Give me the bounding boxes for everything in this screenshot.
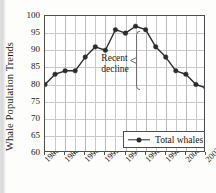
bracket-pointer — [131, 57, 137, 63]
y-tick-label: 95 — [31, 27, 40, 37]
x-tick-mark — [145, 152, 146, 155]
x-tick-mark — [205, 152, 206, 155]
x-tick-mark — [104, 152, 105, 155]
y-tick-label: 80 — [31, 79, 40, 89]
y-tick-label: 70 — [31, 113, 40, 123]
x-tick-mark-minor — [175, 152, 176, 154]
x-tick-mark-minor — [54, 152, 55, 154]
x-tick-mark-minor — [94, 152, 95, 154]
y-tick-label: 65 — [31, 130, 40, 140]
plot-area: Recent decline Total whales — [44, 15, 205, 152]
x-tick-mark — [84, 152, 85, 155]
x-tick-mark-minor — [195, 152, 196, 154]
y-tick-label: 75 — [31, 96, 40, 106]
y-axis-title: Whale Population Trends — [2, 0, 16, 193]
x-tick-mark — [125, 152, 126, 155]
y-tick-label: 100 — [27, 10, 41, 20]
x-tick-mark — [44, 152, 45, 155]
y-tick-label: 90 — [31, 44, 40, 54]
chart-root: Whale Population Trends 1009590858075706… — [0, 0, 216, 193]
recent-decline-annotation: Recent decline — [101, 53, 128, 75]
x-tick-mark-minor — [114, 152, 115, 154]
x-tick-mark — [185, 152, 186, 155]
y-tick-label: 85 — [31, 61, 40, 71]
legend-label-total-whales: Total whales — [155, 135, 203, 145]
y-tick-label: 60 — [31, 147, 40, 157]
y-axis-title-container: Whale Population Trends — [4, 0, 18, 193]
x-tick-mark-minor — [74, 152, 75, 154]
x-tick-mark-minor — [155, 152, 156, 154]
legend-marker-icon — [128, 135, 150, 145]
annotation-line-2: decline — [101, 64, 128, 75]
x-tick-mark-minor — [135, 152, 136, 154]
x-tick-mark — [64, 152, 65, 155]
chart-legend: Total whales — [123, 131, 205, 148]
annotation-line-1: Recent — [101, 53, 127, 63]
bracket-stroke — [137, 31, 141, 89]
x-tick-mark — [165, 152, 166, 155]
